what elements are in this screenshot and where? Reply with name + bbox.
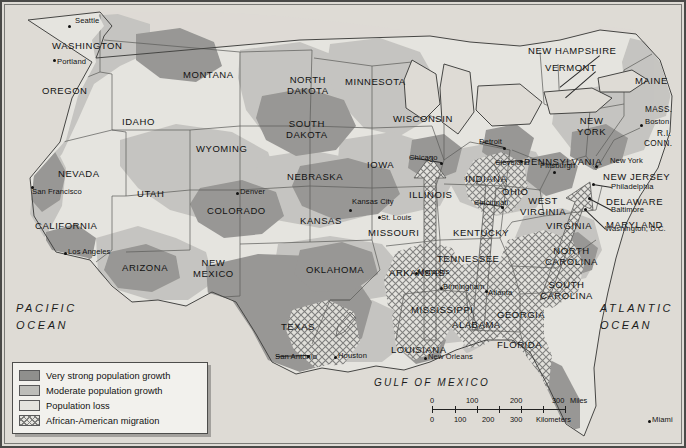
state-label-southdakota: SOUTHDAKOTA xyxy=(286,119,328,140)
legend-item-migration: African-American migration xyxy=(19,413,201,428)
scalebar-miles-tick-0: 0 xyxy=(430,396,434,405)
city-dot-pittsburgh xyxy=(553,171,556,174)
map-legend: Very strong population growth Moderate p… xyxy=(12,362,208,434)
state-label-nevada: NEVADA xyxy=(58,169,100,179)
state-label-kansas: KANSAS xyxy=(300,216,342,226)
city-dot-denver xyxy=(236,192,239,195)
scalebar-km-tick-1: 100 xyxy=(454,415,466,424)
state-label-conn: CONN. xyxy=(644,140,672,149)
city-label-houston: Houston xyxy=(338,352,367,360)
city-label-st-louis: St. Louis xyxy=(381,214,411,222)
city-dot-chicago xyxy=(440,162,443,165)
city-label-baltimore: Baltimore xyxy=(611,206,644,214)
state-label-missouri: MISSOURI xyxy=(368,228,419,238)
city-label-birmingham: Birmingham xyxy=(443,283,485,291)
state-label-texas: TEXAS xyxy=(281,322,315,332)
state-label-minnesota: MINNESOTA xyxy=(345,77,406,87)
state-label-maine: MAINE xyxy=(635,76,668,86)
city-label-memphis: Memphis xyxy=(418,268,450,276)
state-label-florida: FLORIDA xyxy=(497,340,542,350)
state-label-washington: WASHINGTON xyxy=(52,41,122,51)
city-dot-baltimore xyxy=(588,197,591,200)
city-label-boston: Boston xyxy=(645,118,669,126)
state-label-wyoming: WYOMING xyxy=(196,144,247,154)
map-scalebar: 0 100 200 300 Miles 0 100 200 300 Kilome… xyxy=(432,396,566,425)
state-label-colorado: COLORADO xyxy=(207,206,266,216)
legend-label-loss: Population loss xyxy=(46,401,110,411)
legend-item-very-strong: Very strong population growth xyxy=(19,368,201,383)
state-label-newyork: NEWYORK xyxy=(577,116,606,137)
state-label-ri: R.I. xyxy=(657,130,671,139)
legend-item-loss: Population loss xyxy=(19,398,201,413)
state-label-idaho: IDAHO xyxy=(122,117,155,127)
state-label-new-hampshire: NEW HAMPSHIRE xyxy=(528,46,616,56)
city-dot-washington-dc xyxy=(584,208,587,211)
ocean-label-atlantic: ATLANTICOCEAN xyxy=(600,300,673,333)
ocean-label-pacific: PACIFICOCEAN xyxy=(16,300,77,333)
state-label-arizona: ARIZONA xyxy=(122,263,168,273)
state-label-georgia: GEORGIA xyxy=(497,310,545,320)
state-label-oklahoma: OKLAHOMA xyxy=(306,265,364,275)
city-label-washington-dc: Washington, D.C. xyxy=(605,225,666,233)
city-label-new-orleans: New Orleans xyxy=(428,353,473,361)
scalebar-miles-tick-1: 100 xyxy=(466,396,478,405)
city-dot-kansas-city xyxy=(349,209,352,212)
state-label-mississippi: MISSISSIPPI xyxy=(411,305,474,315)
city-dot-los-angeles xyxy=(64,252,67,255)
city-label-kansas-city: Kansas City xyxy=(352,198,394,206)
scalebar-km-labels: 0 100 200 300 Kilometers xyxy=(432,415,566,425)
scalebar-miles-labels: 0 100 200 300 Miles xyxy=(432,396,566,406)
city-label-atlanta: Atlanta xyxy=(488,289,512,297)
state-label-montana: MONTANA xyxy=(183,70,234,80)
city-label-detroit: Detroit xyxy=(479,138,502,146)
scalebar-km-tick-2: 200 xyxy=(482,415,494,424)
state-label-indiana: INDIANA xyxy=(465,174,507,184)
city-label-san-francisco: San Francisco xyxy=(32,188,82,196)
city-label-portland: Portland xyxy=(57,58,86,66)
ocean-label-gulf: GULF OF MEXICO xyxy=(374,375,490,390)
city-label-denver: Denver xyxy=(240,188,265,196)
scalebar-miles-unit: Miles xyxy=(570,396,587,405)
state-label-alabama: ALABAMA xyxy=(452,320,501,330)
city-label-chicago: Chicago xyxy=(409,154,438,162)
state-label-virginia: VIRGINIA xyxy=(546,221,592,231)
city-dot-new-york xyxy=(595,165,598,168)
city-label-los-angeles: Los Angeles xyxy=(68,248,110,256)
scalebar-miles-tick-2: 200 xyxy=(510,396,522,405)
scalebar-km-tick-0: 0 xyxy=(430,415,434,424)
state-label-newmexico: NEWMEXICO xyxy=(193,258,234,279)
legend-swatch-moderate xyxy=(19,385,40,396)
city-dot-detroit xyxy=(503,147,506,150)
city-label-pittsburgh: Pittsburgh xyxy=(540,162,575,170)
city-dot-san-francisco xyxy=(31,186,34,189)
legend-label-very-strong: Very strong population growth xyxy=(46,371,170,381)
city-dot-miami xyxy=(648,420,651,423)
legend-swatch-loss xyxy=(19,400,40,411)
scalebar-miles-tick-3: 300 xyxy=(552,396,564,405)
city-dot-birmingham xyxy=(440,287,443,290)
state-label-new-jersey: NEW JERSEY xyxy=(603,172,670,182)
city-dot-cleveland xyxy=(520,160,523,163)
population-growth-map: WASHINGTONOREGONIDAHOMONTANANORTHDAKOTAS… xyxy=(0,0,686,448)
state-label-southcarolina: SOUTHCAROLINA xyxy=(540,280,593,301)
state-label-tennessee: TENNESSEE xyxy=(437,254,500,264)
state-label-northdakota: NORTHDAKOTA xyxy=(287,75,329,96)
state-label-kentucky: KENTUCKY xyxy=(453,228,509,238)
state-label-california: CALIFORNIA xyxy=(35,221,98,231)
city-label-seattle: Seattle xyxy=(75,17,99,25)
state-label-nebraska: NEBRASKA xyxy=(287,172,343,182)
city-dot-houston xyxy=(334,356,337,359)
city-dot-atlanta xyxy=(485,290,488,293)
state-label-northcarolina: NORTHCAROLINA xyxy=(545,246,598,267)
city-label-miami: Miami xyxy=(652,416,673,424)
city-dot-portland xyxy=(53,59,56,62)
city-dot-new-orleans xyxy=(424,357,427,360)
city-label-cleveland: Cleveland xyxy=(495,159,530,167)
state-label-mass: MASS. xyxy=(645,106,672,115)
state-label-vermont: VERMONT xyxy=(545,63,596,73)
city-dot-st-louis xyxy=(378,216,381,219)
city-dot-memphis xyxy=(415,272,418,275)
city-dot-boston xyxy=(640,124,643,127)
state-label-illinois: ILLINOIS xyxy=(409,190,452,200)
city-dot-philadelphia xyxy=(592,183,595,186)
